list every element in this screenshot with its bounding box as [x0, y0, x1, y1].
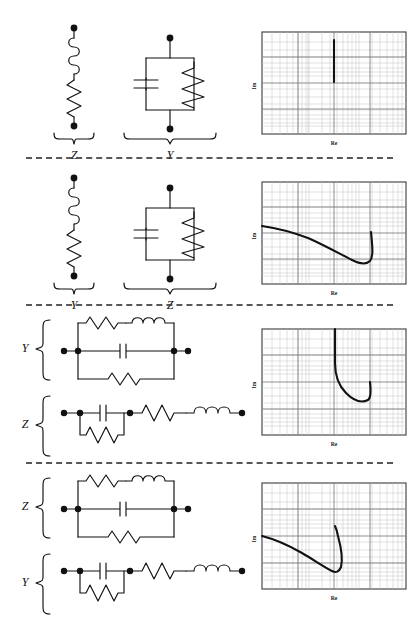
inductor-symbol-series: [186, 407, 242, 413]
circuit-label-row3-bottom: Z: [18, 417, 32, 432]
plot-grid: [262, 483, 406, 589]
curly-brace-shape: [36, 396, 50, 456]
resistor-symbol-bottom-branch: [78, 531, 174, 543]
curly-brace-shape: [54, 133, 94, 144]
plot-svg-row-2: Im Re: [248, 176, 414, 300]
brace-row2-right: [116, 280, 242, 300]
nyquist-plot-row-3: Im Re: [248, 323, 414, 451]
capacitor-symbol-middle-branch: [78, 344, 174, 358]
axis-label-re: Re: [331, 290, 338, 296]
terminal-node-top: [71, 175, 78, 182]
axis-label-im: Im: [251, 82, 257, 89]
brace-row1-right: [116, 130, 242, 150]
nyquist-plot-row-1: Im Re: [248, 26, 414, 150]
terminal-node-bottom: [71, 273, 78, 280]
brace-row3-bottom: [32, 393, 58, 461]
circuit-svg-parallel-CR-vertical: [124, 32, 228, 136]
terminal-node-top: [71, 25, 78, 32]
plot-grid: [262, 182, 406, 284]
inductor-symbol-top-branch: [126, 476, 174, 481]
capacitor-symbol-middle-branch: [78, 502, 174, 516]
circuit-label-row3-top: Y: [18, 341, 32, 356]
capacitor-symbol: [80, 563, 130, 579]
resistor-symbol-parallel: [80, 571, 124, 601]
axis-label-im: Im: [251, 535, 257, 542]
resistor-symbol-bottom-branch: [78, 373, 174, 385]
resistor-symbol: [67, 80, 81, 117]
inductor-symbol-top-branch: [126, 318, 174, 323]
circuit-row2-right: Z: [124, 182, 228, 286]
brace-row3-top: [32, 317, 58, 385]
brace-row4-bottom: [32, 551, 58, 619]
inductor-symbol: [69, 188, 80, 224]
resistor-symbol-top-branch: [78, 475, 126, 487]
terminal-node-bottom: [71, 123, 78, 130]
circuit-label-row4-bottom: Y: [18, 575, 32, 590]
circuit-svg-parallel-RC-series-RL: [56, 549, 256, 619]
plot-svg-row-3: Im Re: [248, 323, 414, 451]
curly-brace-shape: [124, 133, 216, 144]
figure-row-4: Z Y: [0, 463, 419, 629]
plot-svg-row-4: Im Re: [248, 477, 414, 605]
figure-row-3: Y Z: [0, 305, 419, 463]
circuit-svg-parallel-CR-vertical: [124, 182, 228, 286]
circuit-svg-three-parallel-branches: [56, 315, 214, 387]
curly-brace-shape: [36, 320, 50, 380]
circuit-svg-three-parallel-branches: [56, 473, 214, 545]
figure-row-1: Z Y: [0, 0, 419, 158]
figure-equivalent-circuits-and-nyquist-plots: Z Y: [0, 0, 419, 629]
circuit-label-row4-top: Z: [18, 499, 32, 514]
resistor-symbol: [182, 62, 204, 108]
resistor-symbol-top-branch: [78, 317, 126, 329]
curly-brace-shape: [36, 478, 50, 538]
nyquist-plot-row-2: Im Re: [248, 176, 414, 300]
axis-label-re: Re: [331, 441, 338, 447]
resistor-symbol-series: [130, 563, 186, 579]
terminal-node-top: [167, 35, 174, 42]
inductor-symbol-series: [186, 565, 242, 571]
terminal-node-top: [167, 185, 174, 192]
resistor-symbol-parallel: [80, 413, 124, 443]
nyquist-plot-row-4: Im Re: [248, 477, 414, 605]
curly-brace-shape: [124, 283, 216, 294]
axis-label-re: Re: [331, 595, 338, 601]
axis-label-im: Im: [251, 232, 257, 239]
resistor-symbol-series: [130, 405, 186, 421]
axis-label-re: Re: [331, 140, 338, 146]
circuit-svg-parallel-RC-series-RL: [56, 391, 256, 461]
curly-brace-shape: [54, 283, 94, 294]
inductor-symbol: [69, 38, 80, 74]
capacitor-symbol: [80, 405, 130, 421]
circuit-row1-right: Y: [124, 32, 228, 136]
resistor-symbol: [182, 212, 204, 258]
figure-row-2: Y Z: [0, 158, 419, 305]
axis-label-im: Im: [251, 381, 257, 388]
plot-svg-row-1: Im Re: [248, 26, 414, 150]
curly-brace-shape: [36, 554, 50, 614]
brace-row4-top: [32, 475, 58, 543]
resistor-symbol: [67, 230, 81, 267]
